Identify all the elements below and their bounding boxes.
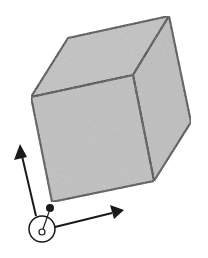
cube-front-face — [31, 75, 154, 202]
diagram-canvas — [0, 0, 208, 258]
y-axis-line — [22, 156, 36, 216]
x-axis-arrowhead-icon — [110, 205, 124, 219]
y-axis-arrowhead-icon — [14, 144, 27, 160]
origin-inner-circle-icon — [39, 229, 45, 235]
x-axis-line — [55, 213, 112, 227]
origin-dot-icon — [46, 204, 54, 212]
cube-diagram — [0, 0, 208, 258]
